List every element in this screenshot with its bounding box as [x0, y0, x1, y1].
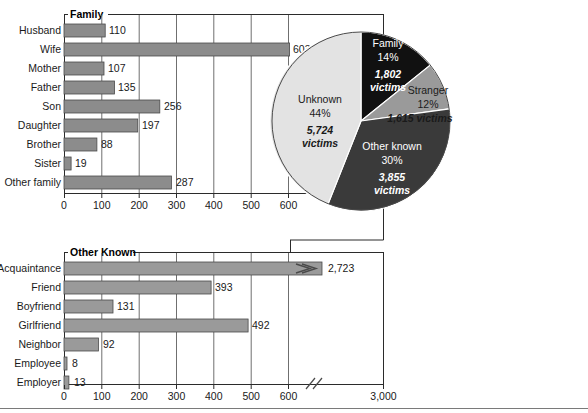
family-label-2: Mother	[28, 62, 61, 74]
ok-value-boyfriend: 131	[117, 300, 135, 312]
family-label-1: Wife	[40, 43, 61, 55]
family-value-mother: 107	[108, 62, 126, 74]
pie-stranger-name: Stranger	[408, 84, 449, 96]
pie-unknown-victims-word: victims	[302, 137, 338, 149]
pie-stranger-victims: 1,615 victims	[387, 112, 453, 124]
victim-relationship-pie-chart: Family 14% 1,802 victims Stranger 12% 1,…	[270, 32, 453, 211]
family-bar-wife	[64, 43, 290, 56]
family-value-husband: 110	[109, 24, 126, 36]
family-tick-2: 200	[130, 199, 148, 211]
ok-tick-6: 600	[280, 390, 298, 402]
family-panel-title: Family	[70, 8, 103, 20]
ok-label-2: Boyfriend	[17, 300, 62, 312]
family-bar-daughter	[64, 119, 138, 132]
family-label-0: Husband	[19, 24, 61, 36]
other-known-category-labels: Acquaintance Friend Boyfriend Girlfriend…	[0, 262, 61, 388]
family-bar-brother	[64, 138, 97, 151]
pie-unknown-pct: 44%	[309, 107, 330, 119]
ok-bar-employee	[64, 357, 67, 370]
family-axis-ticks	[65, 194, 289, 198]
family-bar-mother	[64, 62, 104, 75]
pie-family-victims-word: victims	[370, 81, 406, 93]
family-tick-6: 600	[280, 199, 298, 211]
family-value-son: 256	[164, 100, 182, 112]
ok-label-0: Acquaintance	[0, 262, 61, 274]
ok-tick-4: 400	[205, 390, 223, 402]
ok-bar-neighbor	[64, 338, 98, 351]
ok-tick-0: 0	[61, 390, 67, 402]
family-bar-son	[64, 100, 160, 113]
other-known-bars	[64, 262, 322, 389]
pie-other-pct: 30%	[381, 154, 402, 166]
family-bar-husband	[64, 24, 105, 37]
family-value-sister: 19	[75, 157, 87, 169]
family-value-brother: 88	[101, 138, 113, 150]
family-label-4: Son	[42, 100, 61, 112]
ok-value-girlfriend: 492	[252, 319, 270, 331]
pie-other-victims-num: 3,855	[379, 171, 405, 183]
family-tick-1: 100	[93, 199, 111, 211]
ok-bar-friend	[64, 281, 211, 294]
ok-label-6: Employer	[17, 376, 62, 388]
ok-bar-boyfriend	[64, 300, 113, 313]
family-bar-father	[64, 81, 115, 94]
other-known-panel-title: Other Known	[70, 246, 136, 258]
family-tick-0: 0	[61, 199, 67, 211]
family-tick-3: 300	[168, 199, 186, 211]
family-label-3: Father	[31, 81, 62, 93]
other-known-bar-chart: Other Known Acquaintance Friend Boyfrien…	[0, 246, 397, 402]
pie-other-victims-word: victims	[374, 184, 410, 196]
family-value-other-family: 287	[176, 176, 194, 188]
family-tick-5: 500	[242, 199, 260, 211]
family-value-father: 135	[118, 81, 136, 93]
family-label-6: Brother	[27, 138, 62, 150]
family-category-labels: Husband Wife Mother Father Son Daughter …	[4, 24, 61, 188]
family-value-daughter: 197	[142, 119, 160, 131]
figure-root: Family Husband Wife Mother Father Son Da…	[0, 0, 588, 413]
ok-tick-7: 3,000	[370, 390, 396, 402]
other-known-axis-ticks	[65, 385, 384, 389]
ok-label-4: Neighbor	[18, 338, 61, 350]
pie-family-pct: 14%	[377, 51, 398, 63]
pie-unknown-name: Unknown	[298, 93, 342, 105]
ok-value-neighbor: 92	[103, 338, 115, 350]
family-tick-labels: 0 100 200 300 400 500 600	[61, 199, 297, 211]
combined-chart-svg: Family Husband Wife Mother Father Son Da…	[0, 0, 588, 413]
family-label-7: Sister	[34, 157, 61, 169]
family-bar-sister	[64, 157, 71, 170]
ok-tick-2: 200	[130, 390, 148, 402]
family-bar-other-family	[64, 176, 171, 189]
pie-other-name: Other known	[362, 140, 422, 152]
ok-value-friend: 393	[215, 281, 233, 293]
pie-unknown-victims-num: 5,724	[307, 124, 333, 136]
ok-bar-girlfriend	[64, 319, 248, 332]
pie-family-name: Family	[373, 37, 405, 49]
family-label-8: Other family	[4, 176, 61, 188]
ok-tick-1: 100	[93, 390, 111, 402]
pie-stranger-pct: 12%	[417, 98, 438, 110]
ok-value-employee: 8	[72, 357, 78, 369]
ok-value-employer: 13	[74, 376, 86, 388]
family-tick-4: 400	[205, 199, 223, 211]
x-axis-break-icon	[306, 378, 322, 389]
pie-family-victims-num: 1,802	[375, 68, 401, 80]
ok-bar-acquaintance	[64, 262, 322, 275]
ok-tick-5: 500	[242, 390, 260, 402]
ok-label-3: Girlfriend	[18, 319, 61, 331]
ok-label-1: Friend	[31, 281, 61, 293]
ok-label-5: Employee	[14, 357, 61, 369]
family-label-5: Daughter	[18, 119, 62, 131]
ok-value-acquaintance: 2,723	[328, 262, 354, 274]
ok-tick-3: 300	[168, 390, 186, 402]
other-known-tick-labels: 0 100 200 300 400 500 600 3,000	[61, 390, 397, 402]
